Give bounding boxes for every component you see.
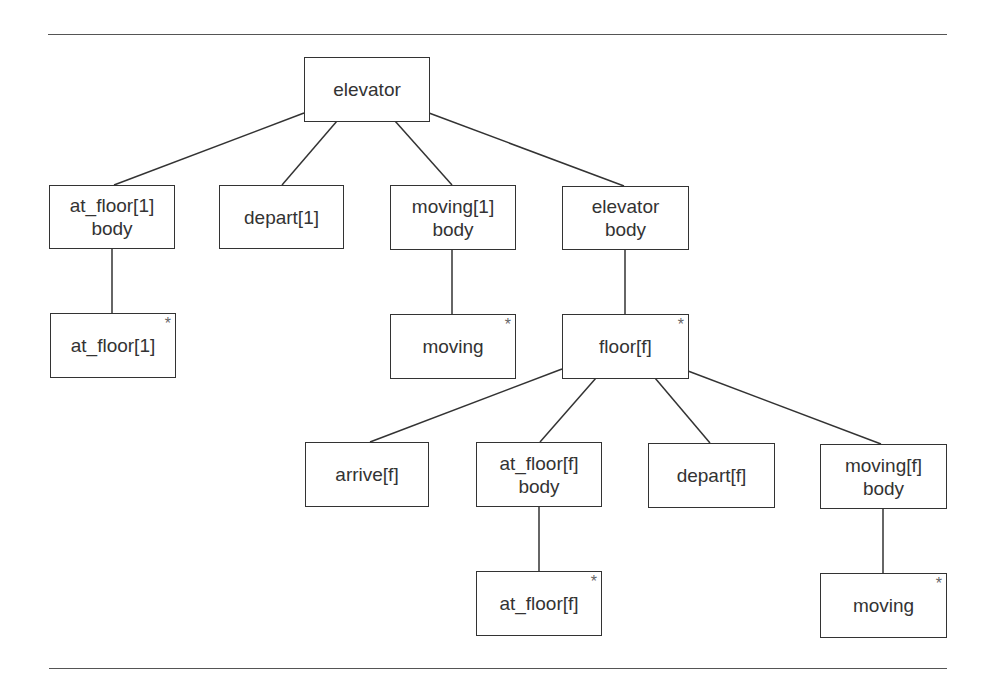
- node-elevator-body: elevator body: [562, 186, 689, 250]
- node-at-floor-f: at_floor[f] *: [476, 571, 602, 636]
- node-label: elevator: [592, 195, 660, 218]
- edge-floor_f-arrive_f: [370, 369, 562, 442]
- node-elevator: elevator: [304, 57, 430, 122]
- node-at-floor-f-body: at_floor[f] body: [476, 442, 602, 507]
- node-depart-f: depart[f]: [648, 443, 775, 508]
- node-moving-f: moving *: [820, 573, 947, 638]
- node-label: at_floor[1]: [70, 194, 155, 217]
- node-label-sub: body: [91, 217, 132, 240]
- node-label: elevator: [333, 78, 401, 101]
- repeat-asterisk-icon: *: [591, 574, 597, 590]
- repeat-asterisk-icon: *: [505, 317, 511, 333]
- edge-floor_f-moving_f_body: [688, 371, 881, 444]
- structure-tree-diagram: elevator at_floor[1] body depart[1] movi…: [0, 0, 997, 683]
- repeat-asterisk-icon: *: [165, 316, 171, 332]
- node-moving-f-body: moving[f] body: [820, 444, 947, 509]
- edge-elevator-at_floor1_body: [114, 113, 304, 185]
- edge-elevator-depart1: [282, 121, 337, 185]
- edge-elevator-elevator_body: [429, 113, 624, 186]
- node-label-sub: body: [605, 218, 646, 241]
- node-label: depart[f]: [677, 464, 747, 487]
- node-label: arrive[f]: [335, 463, 398, 486]
- node-depart-1: depart[1]: [219, 185, 344, 249]
- node-label: at_floor[f]: [499, 592, 578, 615]
- node-label-sub: body: [863, 477, 904, 500]
- node-label: moving[f]: [845, 454, 922, 477]
- repeat-asterisk-icon: *: [936, 576, 942, 592]
- node-label-sub: body: [432, 218, 473, 241]
- node-at-floor-1-body: at_floor[1] body: [49, 185, 175, 249]
- node-label: at_floor[1]: [71, 334, 156, 357]
- node-label-sub: body: [518, 475, 559, 498]
- edge-floor_f-at_floor_f_body: [540, 378, 596, 442]
- node-moving-1: moving *: [390, 314, 516, 379]
- node-label: at_floor[f]: [499, 452, 578, 475]
- node-label: moving[1]: [412, 195, 494, 218]
- repeat-asterisk-icon: *: [678, 317, 684, 333]
- node-arrive-f: arrive[f]: [305, 442, 429, 507]
- node-label: moving: [853, 594, 914, 617]
- node-floor-f: floor[f] *: [562, 314, 689, 379]
- edge-elevator-moving1_body: [395, 121, 452, 185]
- node-label: moving: [422, 335, 483, 358]
- node-moving-1-body: moving[1] body: [390, 185, 516, 250]
- edge-floor_f-depart_f: [655, 378, 710, 443]
- node-label: depart[1]: [244, 206, 319, 229]
- node-at-floor-1: at_floor[1] *: [50, 313, 176, 378]
- node-label: floor[f]: [599, 335, 652, 358]
